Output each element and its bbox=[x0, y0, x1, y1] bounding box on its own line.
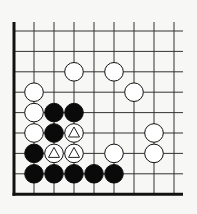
white-stone bbox=[105, 144, 124, 163]
white-stone bbox=[145, 124, 164, 143]
white-stone bbox=[65, 63, 84, 82]
white-stone bbox=[25, 103, 44, 122]
white-stone bbox=[105, 63, 124, 82]
go-board bbox=[0, 0, 197, 214]
black-stone bbox=[45, 103, 64, 122]
black-stone bbox=[45, 165, 64, 184]
white-stone bbox=[25, 124, 44, 143]
white-stone bbox=[25, 83, 44, 102]
white-stone bbox=[125, 83, 144, 102]
white-stone bbox=[145, 144, 164, 163]
black-stone bbox=[65, 103, 84, 122]
black-stone bbox=[25, 144, 44, 163]
black-stone bbox=[85, 165, 104, 184]
black-stone bbox=[65, 165, 84, 184]
black-stone bbox=[25, 165, 44, 184]
black-stone bbox=[45, 124, 64, 143]
black-stone bbox=[105, 165, 124, 184]
